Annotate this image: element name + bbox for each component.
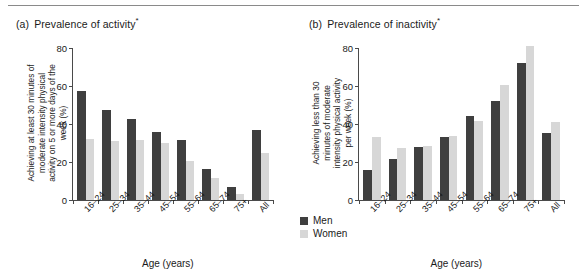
bar-men-1624: [363, 170, 372, 200]
bar-women-5564: [474, 121, 483, 200]
bar-men-3544: [414, 147, 423, 200]
y-tick-80: [69, 48, 73, 49]
y-tick-label-40: 40: [56, 119, 67, 130]
x-tick-end: [564, 200, 565, 204]
bar-women-3544: [423, 146, 432, 200]
bar-men-75+: [517, 63, 526, 200]
y-tick-60: [355, 86, 359, 87]
bar-women-2534: [397, 148, 406, 200]
bar-men-5564: [177, 140, 186, 200]
bar-men-5564: [466, 116, 475, 200]
y-tick-20: [69, 162, 73, 163]
bar-men-6574: [491, 101, 500, 200]
bar-men-4554: [152, 132, 161, 200]
panel-a-tag: (a): [16, 18, 29, 30]
legend-item-women: Women: [300, 227, 347, 240]
bar-men-All: [252, 130, 261, 200]
x-tick-end: [273, 200, 274, 204]
y-tick-label-20: 20: [342, 157, 353, 168]
panel-b-title-text: Prevalence of inactivity: [327, 18, 437, 30]
panel-a-x-axis-title: Age (years): [142, 258, 194, 269]
legend-label-women: Women: [313, 228, 347, 239]
bar-women-5564: [186, 161, 195, 200]
y-tick-label-60: 60: [342, 81, 353, 92]
bar-women-All: [261, 153, 270, 201]
y-tick-label-40: 40: [342, 119, 353, 130]
panel-prevalence-of-activity: (a)Prevalence of activity* Achieving at …: [0, 0, 293, 259]
legend-swatch-men-icon: [300, 217, 308, 225]
bar-women-75+: [526, 46, 535, 200]
bar-women-All: [551, 122, 560, 200]
bar-women-6574: [500, 85, 509, 200]
bar-men-3544: [127, 119, 136, 200]
panel-b-title: (b)Prevalence of inactivity*: [309, 16, 440, 30]
bar-men-2534: [102, 110, 111, 200]
panel-a-footnote-marker: *: [136, 16, 139, 25]
bar-women-4554: [161, 143, 170, 200]
y-tick-label-0: 0: [62, 195, 67, 206]
bar-men-1624: [77, 91, 86, 200]
bar-men-All: [542, 133, 551, 200]
bar-women-3544: [136, 140, 145, 200]
y-tick-label-60: 60: [56, 81, 67, 92]
panel-b-footnote-marker: *: [437, 16, 440, 25]
y-tick-40: [355, 124, 359, 125]
y-tick-80: [355, 48, 359, 49]
panel-a-plot-area: 020406080: [72, 48, 273, 201]
x-category-label-All: All: [257, 200, 271, 214]
y-tick-label-80: 80: [342, 43, 353, 54]
bar-men-4554: [440, 137, 449, 200]
y-tick-label-80: 80: [56, 43, 67, 54]
y-tick-label-20: 20: [56, 157, 67, 168]
panel-b-plot-area: 020406080: [358, 48, 564, 201]
x-tick-0: [359, 200, 360, 204]
bar-women-1624: [372, 137, 381, 200]
panel-a-title-text: Prevalence of activity: [34, 18, 135, 30]
y-tick-label-0: 0: [348, 195, 353, 206]
legend-label-men: Men: [313, 215, 332, 226]
bar-women-4554: [449, 136, 458, 200]
bar-women-1624: [86, 139, 95, 200]
y-tick-40: [69, 124, 73, 125]
y-tick-20: [355, 162, 359, 163]
y-tick-60: [69, 86, 73, 87]
x-category-label-All: All: [548, 200, 562, 214]
bar-women-2534: [111, 141, 120, 200]
legend-item-men: Men: [300, 214, 347, 227]
panel-b-tag: (b): [309, 18, 322, 30]
panel-b-x-axis-title: Age (years): [431, 258, 483, 269]
legend: Men Women: [300, 214, 347, 240]
legend-swatch-women-icon: [300, 230, 308, 238]
panel-a-title: (a)Prevalence of activity*: [16, 16, 139, 30]
x-tick-0: [73, 200, 74, 204]
